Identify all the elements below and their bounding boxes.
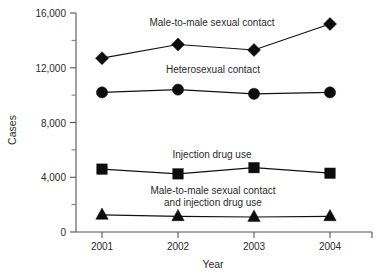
series-3-point-2004 <box>325 168 335 178</box>
series-1-point-2002 <box>172 38 185 51</box>
series-injection-drug-use <box>97 163 335 180</box>
x-tick-label-2002: 2002 <box>167 241 190 252</box>
series-1-point-2001 <box>96 52 109 65</box>
series-2-point-2003 <box>248 88 259 99</box>
y-axis-major-ticks <box>70 13 76 232</box>
series-heterosexual-contact <box>96 84 335 99</box>
y-tick-label-0: 0 <box>60 227 66 238</box>
series-1-point-2003 <box>248 44 261 57</box>
chart-container: Cases 16,000 12,000 8,000 4,000 0 <box>0 0 383 279</box>
series-label-combined-line2: and injection drug use <box>164 197 262 208</box>
series-4-point-2004 <box>324 209 336 220</box>
series-4-point-2001 <box>96 208 108 219</box>
series-male-to-male-and-injection-drug-use <box>96 208 336 221</box>
series-3-point-2001 <box>97 164 107 174</box>
line-chart: Cases 16,000 12,000 8,000 4,000 0 <box>0 0 383 279</box>
series-label-injection-drug-use: Injection drug use <box>173 149 252 160</box>
y-tick-label-4000: 4,000 <box>41 172 66 183</box>
series-1-line <box>102 24 330 58</box>
series-2-point-2001 <box>96 87 107 98</box>
series-2-point-2004 <box>324 87 335 98</box>
y-tick-label-16000: 16,000 <box>35 8 66 19</box>
series-4-point-2003 <box>248 210 260 221</box>
series-3-point-2002 <box>173 169 183 179</box>
y-axis-title: Cases <box>6 115 18 145</box>
x-tick-label-2001: 2001 <box>91 241 114 252</box>
x-axis-title: Year <box>202 258 224 270</box>
series-1-point-2004 <box>324 18 337 31</box>
x-tick-label-2004: 2004 <box>319 241 342 252</box>
series-2-line <box>102 90 330 94</box>
series-4-point-2002 <box>172 209 184 220</box>
x-tick-label-2003: 2003 <box>243 241 266 252</box>
series-label-heterosexual-contact: Heterosexual contact <box>166 64 260 75</box>
series-4-line <box>102 215 330 217</box>
series-3-line <box>102 168 330 174</box>
y-tick-label-12000: 12,000 <box>35 63 66 74</box>
series-2-point-2002 <box>172 84 183 95</box>
x-axis-ticks <box>102 232 372 238</box>
series-label-male-to-male-sexual-contact: Male-to-male sexual contact <box>149 17 274 28</box>
y-tick-label-8000: 8,000 <box>41 118 66 129</box>
series-label-combined-line1: Male-to-male sexual contact <box>150 185 275 196</box>
series-3-point-2003 <box>249 163 259 173</box>
